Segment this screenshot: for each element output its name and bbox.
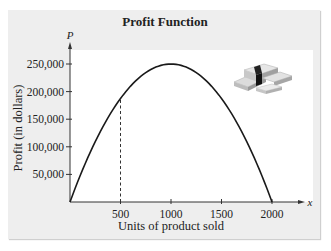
y-tick-label: 50,000 (32, 168, 64, 181)
profit-chart: Profit Function P x 50,000100,000150,000… (0, 0, 331, 251)
y-axis-variable: P (66, 29, 74, 41)
y-tick-label: 150,000 (27, 113, 65, 126)
y-tick-label: 250,000 (27, 58, 65, 71)
x-axis-variable: x (307, 196, 313, 208)
y-axis-title: Profit (in dollars) (11, 85, 25, 172)
y-tick-label: 100,000 (27, 141, 65, 154)
x-tick-label: 2000 (261, 208, 284, 220)
y-axis-arrow (68, 42, 72, 49)
chart-title: Profit Function (122, 14, 208, 29)
x-axis-title: Units of product sold (118, 219, 225, 233)
y-tick-label: 200,000 (27, 86, 65, 99)
